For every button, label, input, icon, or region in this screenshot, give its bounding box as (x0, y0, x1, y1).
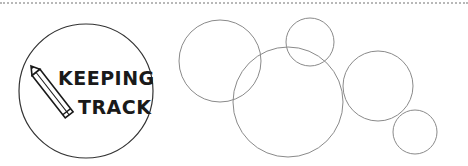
decorative-circle (343, 51, 413, 121)
decorative-circles (179, 18, 437, 157)
logo-text-line1: KEEPING (58, 67, 155, 89)
logo-text-line2: TRACK (78, 96, 152, 118)
decorative-circle (286, 18, 334, 66)
decorative-circle (179, 20, 261, 102)
decorative-circle (393, 110, 437, 154)
keeping-track-logo: KEEPING TRACK (19, 24, 155, 158)
graphic-canvas: KEEPING TRACK (0, 0, 468, 166)
logo-badge-circle (19, 24, 153, 158)
decorative-circle (233, 47, 343, 157)
